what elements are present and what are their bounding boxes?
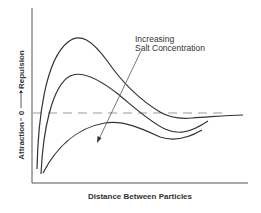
curve-high-salt [43, 122, 202, 173]
curve-low-salt [37, 38, 243, 169]
y-label-zero: 0 [17, 110, 26, 115]
x-axis-label: Distance Between Particles [88, 192, 193, 201]
y-label-repulsion: Repulsion [17, 50, 26, 89]
arrowhead-icon [97, 136, 102, 143]
y-arrowhead-icon [19, 90, 23, 93]
chart: Increasing Salt Concentration Distance B… [0, 0, 261, 213]
annotation-line2: Salt Concentration [135, 43, 205, 53]
y-label-attraction: Attraction [17, 122, 26, 160]
